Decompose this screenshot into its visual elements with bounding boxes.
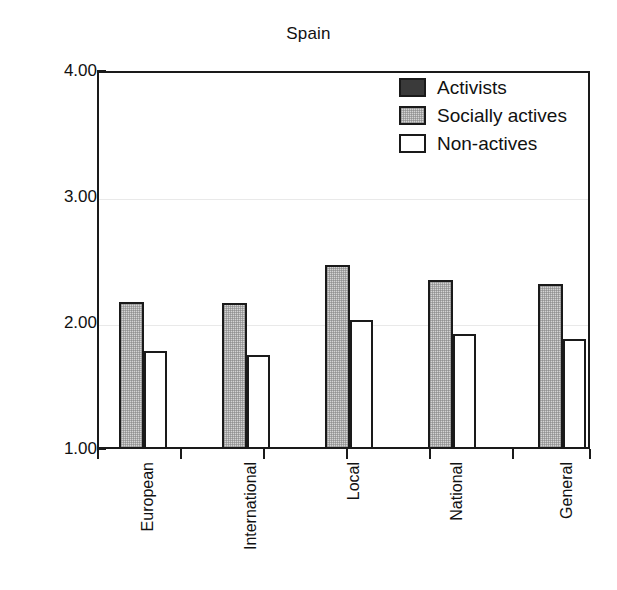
bar-socially-international[interactable] — [222, 303, 247, 449]
x-tick-4 — [429, 449, 431, 459]
legend-item-non-actives[interactable]: Non-actives — [399, 129, 567, 157]
x-tick-2 — [263, 449, 265, 459]
x-tick-6 — [589, 449, 591, 459]
y-tick-label-2: 2.00 — [37, 313, 97, 333]
bar-socially-national[interactable] — [428, 280, 453, 449]
legend-swatch-socially-actives-icon — [399, 106, 426, 125]
bar-nonactives-national[interactable] — [453, 334, 476, 449]
x-label-european: European — [139, 462, 157, 531]
x-label-international: International — [242, 462, 260, 550]
y-tick-label-4: 4.00 — [37, 61, 97, 81]
bar-nonactives-european[interactable] — [144, 351, 167, 449]
y-tick-label-1: 1.00 — [37, 439, 97, 459]
x-tick-0 — [97, 449, 99, 459]
bar-nonactives-international[interactable] — [247, 355, 270, 450]
x-label-general: General — [558, 462, 576, 519]
x-label-local: Local — [345, 462, 363, 500]
bar-socially-european[interactable] — [119, 302, 144, 449]
legend-label-non-actives: Non-actives — [437, 134, 537, 153]
x-label-national: National — [448, 462, 466, 521]
chart-title: Spain — [0, 24, 617, 44]
legend-swatch-non-actives-icon — [399, 134, 426, 153]
legend: Activists Socially actives Non-actives — [399, 73, 567, 157]
x-tick-3 — [346, 449, 348, 459]
x-tick-5 — [512, 449, 514, 459]
bar-socially-local[interactable] — [325, 265, 350, 449]
x-tick-1 — [180, 449, 182, 459]
legend-label-socially-actives: Socially actives — [437, 106, 567, 125]
legend-swatch-activists-icon — [399, 78, 426, 97]
bar-nonactives-local[interactable] — [350, 320, 373, 449]
bar-nonactives-general[interactable] — [563, 339, 586, 449]
legend-item-socially-actives[interactable]: Socially actives — [399, 101, 567, 129]
chart-container: Spain 4.00 3.00 2.00 1.00 — [0, 0, 617, 590]
bar-socially-general[interactable] — [538, 284, 563, 449]
legend-item-activists[interactable]: Activists — [399, 73, 567, 101]
y-axis: 4.00 3.00 2.00 1.00 — [28, 71, 97, 449]
y-tick-label-3: 3.00 — [37, 187, 97, 207]
legend-label-activists: Activists — [437, 78, 507, 97]
